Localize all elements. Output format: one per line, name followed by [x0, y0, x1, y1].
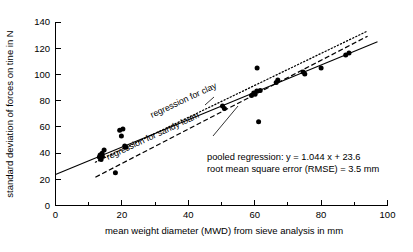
x-tick-label-100: 100: [380, 209, 396, 220]
y-tick-label-80: 80: [39, 95, 50, 106]
y-axis-ticks: [56, 22, 61, 205]
data-point: [319, 66, 324, 71]
x-axis-label: mean weight diameter (MWD) from sieve an…: [105, 225, 343, 236]
data-point: [255, 66, 260, 71]
y-tick-label-20: 20: [39, 174, 50, 185]
chart-figure: 0 20 40 60 80 100 120 140 0 20 40: [0, 0, 413, 252]
data-point: [347, 50, 352, 55]
y-tick-label-100: 100: [34, 69, 50, 80]
data-point: [275, 77, 280, 82]
y-axis-label: standard deviation of forces on tine in …: [4, 30, 15, 198]
data-point: [302, 71, 307, 76]
data-point: [256, 119, 261, 124]
x-tick-label-60: 60: [249, 209, 260, 220]
x-axis-tick-labels: 0 20 40 60 80 100: [53, 209, 396, 220]
pooled-regression-equation: pooled regression: y = 1.044 x + 23.6: [207, 152, 361, 162]
data-point: [99, 157, 104, 162]
data-point: [119, 134, 124, 139]
x-tick-label-80: 80: [316, 209, 327, 220]
clay-line-label: regression for clay: [149, 80, 219, 120]
data-point: [222, 106, 227, 111]
x-tick-label-20: 20: [117, 209, 128, 220]
x-tick-label-40: 40: [183, 209, 194, 220]
y-tick-label-40: 40: [39, 147, 50, 158]
data-point: [120, 126, 125, 131]
y-tick-label-120: 120: [34, 43, 50, 54]
x-axis-ticks: [56, 200, 388, 206]
rmse-annotation: root mean square error (RMSE) = 3.5 mm: [207, 164, 380, 174]
y-axis-tick-labels: 0 20 40 60 80 100 120 140: [34, 16, 50, 210]
y-tick-label-140: 140: [34, 16, 50, 27]
y-tick-label-60: 60: [39, 121, 50, 132]
data-point: [113, 170, 118, 175]
y-tick-label-0: 0: [45, 200, 50, 211]
scatter-plot-svg: 0 20 40 60 80 100 120 140 0 20 40: [0, 0, 413, 252]
clay-label-leader: [205, 97, 214, 105]
axis-lines: [56, 22, 389, 206]
data-point: [258, 88, 263, 93]
x-tick-label-0: 0: [53, 209, 58, 220]
